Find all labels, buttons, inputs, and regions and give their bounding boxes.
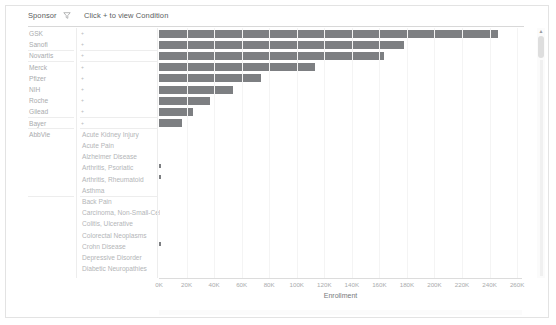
sponsor-cell[interactable]: GSK xyxy=(28,28,75,39)
x-axis-tick-label: 140K xyxy=(345,281,359,288)
x-axis-tick-label: 220K xyxy=(455,281,469,288)
condition-cell[interactable]: Acute Pain xyxy=(80,140,160,151)
sponsor-cell[interactable]: Bayer xyxy=(28,118,75,129)
sponsor-cell[interactable] xyxy=(28,140,75,151)
filter-icon[interactable] xyxy=(63,11,71,20)
x-axis: 0K20K40K60K80K100K120K140K160K180K200K22… xyxy=(159,278,522,308)
column-header-condition[interactable]: Click + to view Condition xyxy=(84,11,168,20)
gridline xyxy=(434,28,435,278)
condition-cell[interactable] xyxy=(80,73,160,84)
data-pane: GSKSanofiNovartisMerckPfizerNIHRocheGile… xyxy=(6,28,548,278)
condition-cell[interactable]: Colitis, Ulcerative xyxy=(80,218,160,229)
expand-plus-icon[interactable] xyxy=(80,109,85,114)
condition-cell[interactable]: Colorectal Neoplasms xyxy=(80,230,160,241)
bar[interactable] xyxy=(159,242,161,246)
condition-cell[interactable]: Diabetic Neuropathies xyxy=(80,263,160,274)
sponsor-cell[interactable] xyxy=(28,230,75,241)
x-axis-tick-label: 120K xyxy=(317,281,331,288)
sponsor-cell[interactable]: Roche xyxy=(28,95,75,106)
gridline xyxy=(407,28,408,278)
condition-cell[interactable] xyxy=(80,50,160,61)
gridline xyxy=(297,28,298,278)
x-axis-tick-label: 60K xyxy=(236,281,247,288)
gridline xyxy=(269,28,270,278)
sponsor-cell[interactable] xyxy=(28,151,75,162)
condition-cell[interactable] xyxy=(80,84,160,95)
condition-cell[interactable]: Carcinoma, Non-Small-Cell xyxy=(80,207,160,218)
sponsor-cell[interactable]: Gilead xyxy=(28,106,75,117)
bar[interactable] xyxy=(159,63,315,71)
expand-plus-icon[interactable] xyxy=(80,42,85,47)
bar[interactable] xyxy=(159,97,210,105)
condition-cell[interactable]: Acute Kidney Injury xyxy=(80,129,160,140)
gridline xyxy=(379,28,380,278)
gridline xyxy=(462,28,463,278)
visualization-container: Sponsor Click + to view Condition GSKSan… xyxy=(5,5,549,318)
sponsor-cell[interactable]: Sanofi xyxy=(28,39,75,50)
sponsor-cell[interactable] xyxy=(28,162,75,173)
vertical-scrollbar-track[interactable] xyxy=(540,60,543,276)
expand-plus-icon[interactable] xyxy=(80,65,85,70)
horizontal-scrollbar[interactable] xyxy=(159,310,522,315)
sponsor-cell[interactable] xyxy=(28,174,75,185)
condition-cell[interactable]: Alzheimer Disease xyxy=(80,151,160,162)
sponsor-cell[interactable]: Pfizer xyxy=(28,73,75,84)
sponsor-cell[interactable] xyxy=(28,207,75,218)
x-axis-tick-label: 260K xyxy=(510,281,524,288)
sponsor-cell[interactable]: Merck xyxy=(28,62,75,73)
sponsor-cell[interactable] xyxy=(28,263,75,274)
expand-plus-icon[interactable] xyxy=(80,98,85,103)
condition-cell[interactable] xyxy=(80,95,160,106)
sponsor-cell[interactable] xyxy=(28,218,75,229)
expand-plus-icon[interactable] xyxy=(80,87,85,92)
condition-cell[interactable]: Back Pain xyxy=(80,196,160,207)
expand-plus-icon[interactable] xyxy=(80,76,85,81)
table-header: Sponsor Click + to view Condition xyxy=(6,6,548,28)
gridline xyxy=(187,28,188,278)
x-axis-tick-label: 160K xyxy=(372,281,386,288)
bar[interactable] xyxy=(159,74,261,82)
sponsor-cell[interactable] xyxy=(28,196,75,207)
bar[interactable] xyxy=(159,86,233,94)
bar[interactable] xyxy=(159,52,384,60)
expand-plus-icon[interactable] xyxy=(80,31,85,36)
condition-cell[interactable]: Asthma xyxy=(80,185,160,196)
condition-cell[interactable] xyxy=(80,28,160,39)
sponsor-cell[interactable] xyxy=(28,252,75,263)
sponsor-cell[interactable]: AbbVie xyxy=(28,129,75,140)
condition-cell[interactable]: Crohn Disease xyxy=(80,241,160,252)
expand-plus-icon[interactable] xyxy=(80,121,85,126)
condition-cell[interactable] xyxy=(80,39,160,50)
scroll-up-icon[interactable] xyxy=(538,28,544,34)
gridline xyxy=(517,28,518,278)
condition-cell[interactable]: Depressive Disorder xyxy=(80,252,160,263)
bar[interactable] xyxy=(159,41,404,49)
x-axis-tick-label: 180K xyxy=(400,281,414,288)
gridline xyxy=(324,28,325,278)
condition-cell[interactable]: Arthritis, Psoriatic xyxy=(80,162,160,173)
vertical-scrollbar-thumb[interactable] xyxy=(538,36,544,58)
condition-cell[interactable] xyxy=(80,62,160,73)
gridline xyxy=(214,28,215,278)
sponsor-cell[interactable]: NIH xyxy=(28,84,75,95)
bar[interactable] xyxy=(159,119,182,127)
bar-plot-area xyxy=(159,28,522,278)
vertical-scrollbar[interactable] xyxy=(537,28,545,278)
condition-cell[interactable]: Arthritis, Rheumatoid xyxy=(80,174,160,185)
x-axis-title: Enrollment xyxy=(159,292,522,299)
gridline xyxy=(352,28,353,278)
expand-plus-icon[interactable] xyxy=(80,53,85,58)
bar[interactable] xyxy=(159,175,161,179)
condition-cell[interactable] xyxy=(80,106,160,117)
bar[interactable] xyxy=(159,30,498,38)
condition-column: Acute Kidney InjuryAcute PainAlzheimer D… xyxy=(80,28,158,278)
bar[interactable] xyxy=(159,164,161,168)
sponsor-cell[interactable] xyxy=(28,241,75,252)
x-axis-tick-label: 0K xyxy=(155,281,163,288)
condition-cell[interactable] xyxy=(80,118,160,129)
gridline xyxy=(242,28,243,278)
sponsor-cell[interactable]: Novartis xyxy=(28,50,75,61)
bar[interactable] xyxy=(159,108,193,116)
column-header-sponsor[interactable]: Sponsor xyxy=(28,11,57,20)
sponsor-cell[interactable] xyxy=(28,185,75,196)
